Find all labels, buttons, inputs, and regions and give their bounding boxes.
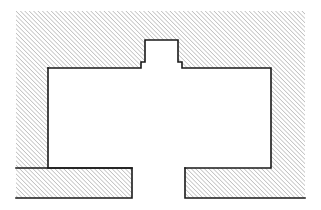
hatch-fill (16, 11, 305, 198)
cross-section-diagram (0, 0, 321, 210)
diagram-canvas (0, 0, 321, 210)
sectioned-body-region (16, 11, 305, 198)
